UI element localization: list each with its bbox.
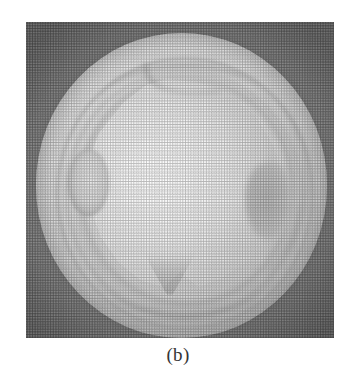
photograph-plate (26, 22, 334, 338)
right-notch (245, 161, 292, 240)
outer-disc (36, 33, 327, 338)
left-lobe (68, 149, 109, 216)
figure-container: (b) (0, 0, 356, 383)
specular-highlight (112, 137, 188, 216)
bottom-arc-secondary (77, 271, 287, 322)
figure-caption: (b) (0, 344, 356, 366)
